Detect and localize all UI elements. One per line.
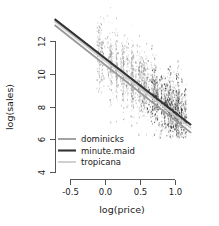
scatter-point: [133, 85, 134, 86]
scatter-point: [179, 131, 180, 133]
scatter-point: [134, 98, 135, 99]
scatter-point: [157, 89, 158, 91]
scatter-point: [148, 60, 149, 62]
x-tick-label: 1.0: [169, 187, 183, 197]
scatter-point: [159, 82, 160, 83]
scatter-point: [139, 96, 140, 98]
scatter-point: [165, 88, 166, 90]
scatter-point: [110, 45, 111, 47]
scatter-point: [140, 77, 141, 78]
scatter-point: [100, 27, 101, 28]
scatter-point: [179, 103, 180, 104]
scatter-point: [110, 55, 111, 56]
scatter-point: [163, 98, 164, 99]
scatter-point: [151, 87, 152, 88]
scatter-point: [108, 54, 109, 55]
scatter-point: [139, 81, 140, 83]
scatter-point: [117, 35, 118, 36]
scatter-point: [116, 60, 117, 61]
scatter-point: [143, 73, 144, 75]
scatter-point: [125, 92, 126, 93]
scatter-point: [116, 48, 117, 50]
scatter-point: [99, 30, 100, 31]
scatter-point: [123, 98, 124, 100]
scatter-point: [166, 135, 167, 136]
scatter-point: [181, 95, 182, 96]
scatter-point: [132, 100, 133, 101]
scatter-point: [145, 112, 146, 114]
scatter-point: [100, 41, 101, 43]
scatter-point: [181, 69, 182, 70]
scatter-point: [169, 92, 170, 94]
scatter-point: [158, 93, 159, 94]
scatter-point: [170, 66, 171, 68]
scatter-point: [174, 99, 175, 100]
scatter-point: [142, 65, 143, 66]
scatter-point: [153, 112, 154, 113]
scatter-point: [149, 89, 150, 91]
scatter-point: [132, 69, 133, 70]
scatter-point: [157, 82, 158, 83]
scatter-point: [164, 97, 165, 98]
scatter-point: [132, 25, 133, 26]
scatter-point: [153, 65, 154, 66]
scatter-point: [156, 79, 157, 80]
scatter-point: [146, 134, 147, 136]
scatter-point: [184, 108, 185, 110]
scatter-point: [120, 67, 121, 68]
scatter-point: [140, 99, 141, 101]
scatter-point: [101, 75, 102, 76]
scatter-point: [184, 114, 185, 116]
scatter-point: [177, 125, 178, 127]
scatter-point: [140, 95, 141, 97]
scatter-point: [108, 85, 109, 87]
scatter-point: [179, 135, 180, 137]
scatter-point: [173, 105, 174, 106]
scatter-point: [115, 50, 116, 51]
scatter-point: [110, 72, 111, 73]
scatter-point: [155, 119, 156, 121]
scatter-point: [116, 18, 117, 19]
scatter-point: [138, 96, 139, 98]
scatter-point: [184, 104, 185, 105]
scatter-point: [126, 87, 127, 89]
scatter-point: [133, 76, 134, 77]
scatter-point: [123, 48, 124, 49]
scatter-point: [177, 92, 178, 94]
scatter-point: [142, 74, 143, 76]
scatter-point: [161, 83, 162, 85]
scatter-point: [111, 50, 112, 51]
scatter-point: [153, 91, 154, 92]
scatter-point: [177, 98, 178, 99]
scatter-point: [116, 96, 117, 98]
x-tick-label: 0.5: [134, 187, 148, 197]
scatter-point: [166, 80, 167, 81]
scatter-point: [155, 70, 156, 71]
scatter-point: [127, 70, 128, 71]
scatter-point: [171, 102, 172, 103]
scatter-point: [162, 125, 163, 127]
scatter-point: [152, 136, 153, 137]
scatter-point: [146, 69, 147, 70]
scatter-point: [152, 113, 153, 114]
scatter-point: [157, 76, 158, 77]
scatter-point: [117, 98, 118, 100]
scatter-point: [143, 105, 144, 107]
scatter-point: [155, 71, 156, 73]
scatter-point: [170, 92, 171, 93]
scatter-point: [141, 71, 142, 73]
scatter-point: [111, 84, 112, 85]
scatter-point: [141, 65, 142, 67]
scatter-point: [111, 77, 112, 79]
scatter-point: [170, 82, 171, 84]
scatter-point: [123, 119, 124, 120]
scatter-point: [122, 53, 123, 55]
scatter-point: [112, 32, 113, 33]
scatter-point: [127, 73, 128, 74]
scatter-point: [158, 109, 159, 110]
scatter-point: [108, 76, 109, 78]
y-tick-label: 6: [37, 137, 47, 142]
scatter-point: [169, 74, 170, 76]
scatter-point: [177, 126, 178, 127]
scatter-point: [128, 85, 129, 87]
